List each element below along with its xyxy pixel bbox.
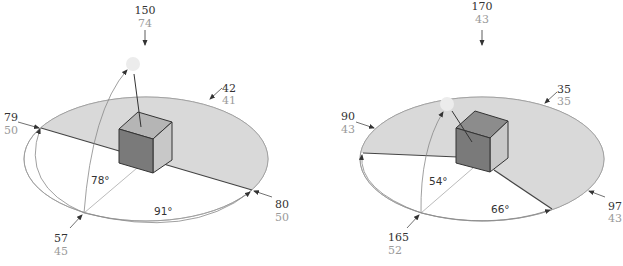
observer-label-top: 165 [388,231,409,244]
sun-icon [126,57,140,71]
far-edge-pointer [545,92,557,103]
sun-icon [440,97,454,111]
left-edge-label-top: 79 [4,111,18,124]
observer-label-bottom: 52 [388,244,402,257]
left-edge-label-bottom: 43 [341,123,355,136]
observer-pointer [70,215,82,228]
azimuth-angle-label: 66° [491,203,510,215]
sun-label-top: 170 [472,0,493,13]
right-edge-pointer [589,191,605,197]
right-edge-label-top: 80 [275,198,289,211]
observer-label-bottom: 45 [54,245,68,258]
sun-label-bottom: 43 [475,13,489,26]
far-edge-label-bottom: 41 [222,94,236,107]
left-edge-pointer [356,122,374,128]
right-edge-label-bottom: 43 [608,212,622,225]
right-edge-label-bottom: 50 [275,211,289,224]
diagram-right: 170 43 90 43 35 35 97 43 165 52 54° 66° [341,0,622,257]
azimuth-angle-label: 91° [154,205,173,217]
sun-shadow-diagrams: 150 74 79 50 42 41 80 50 57 45 78° 91° [0,0,623,266]
sun-label-top: 150 [135,4,156,17]
far-edge-pointer [210,88,222,99]
diagram-left: 150 74 79 50 42 41 80 50 57 45 78° 91° [4,4,289,258]
elevation-angle-label: 78° [91,174,110,186]
left-edge-label-top: 90 [341,110,355,123]
far-edge-label-bottom: 35 [557,95,571,108]
left-edge-label-bottom: 50 [4,124,18,137]
observer-pointer [407,215,419,228]
elevation-angle-label: 54° [429,175,448,187]
left-edge-pointer [18,122,39,128]
observer-label-top: 57 [54,232,68,245]
right-edge-pointer [254,191,272,197]
sun-label-bottom: 74 [138,17,152,30]
